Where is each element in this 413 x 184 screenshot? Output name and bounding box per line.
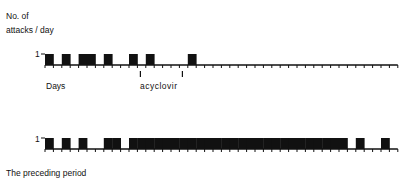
bottom-attack-bar bbox=[230, 138, 239, 149]
attack-charts bbox=[0, 0, 413, 184]
bottom-attack-bar bbox=[62, 138, 71, 149]
bottom-attack-bar bbox=[137, 138, 146, 149]
top-attack-bar bbox=[62, 54, 71, 65]
bottom-attack-bar bbox=[356, 138, 365, 149]
bottom-attack-bar bbox=[339, 138, 348, 149]
bottom-attack-bar bbox=[381, 138, 390, 149]
bottom-attack-bar bbox=[272, 138, 281, 149]
bottom-attack-bar bbox=[188, 138, 197, 149]
bottom-attack-bar bbox=[213, 138, 222, 149]
top-attack-bar bbox=[87, 54, 96, 65]
bottom-attack-bar bbox=[322, 138, 331, 149]
top-attack-bar bbox=[104, 54, 113, 65]
bottom-attack-bar bbox=[314, 138, 323, 149]
bottom-attack-bar bbox=[129, 138, 138, 149]
top-attack-bar bbox=[129, 54, 138, 65]
bottom-attack-bar bbox=[263, 138, 272, 149]
bottom-attack-bar bbox=[255, 138, 264, 149]
bottom-attack-bar bbox=[297, 138, 306, 149]
top-attack-bar bbox=[45, 54, 54, 65]
bottom-attack-bar bbox=[163, 138, 172, 149]
bottom-attack-bar bbox=[205, 138, 214, 149]
top-attack-bar bbox=[146, 54, 155, 65]
bottom-attack-bar bbox=[112, 138, 121, 149]
bottom-attack-bar bbox=[331, 138, 340, 149]
bottom-attack-bar bbox=[280, 138, 289, 149]
bottom-attack-bar bbox=[104, 138, 113, 149]
bottom-attack-bar bbox=[79, 138, 88, 149]
bottom-attack-bar bbox=[305, 138, 314, 149]
top-attack-bar bbox=[79, 54, 88, 65]
bottom-attack-bar bbox=[179, 138, 188, 149]
bottom-attack-bar bbox=[247, 138, 256, 149]
bottom-attack-bar bbox=[221, 138, 230, 149]
bottom-attack-bar bbox=[171, 138, 180, 149]
bottom-attack-bar bbox=[289, 138, 298, 149]
bottom-attack-bar bbox=[196, 138, 205, 149]
top-attack-bar bbox=[188, 54, 197, 65]
bottom-attack-bar bbox=[154, 138, 163, 149]
bottom-attack-bar bbox=[238, 138, 247, 149]
bottom-attack-bar bbox=[146, 138, 155, 149]
bottom-attack-bar bbox=[45, 138, 54, 149]
